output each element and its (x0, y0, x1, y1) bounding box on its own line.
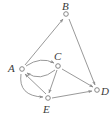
node-label-b: B (62, 1, 69, 12)
edge-e-to-d (52, 91, 92, 98)
edge-c-to-a (27, 70, 55, 77)
node-d[interactable] (95, 88, 100, 93)
node-label-c: C (54, 51, 61, 62)
edge-a-to-e (21, 74, 43, 97)
node-label-d: D (101, 86, 109, 97)
node-label-e: E (43, 104, 50, 115)
node-e[interactable] (46, 96, 51, 101)
directed-graph-figure: A B C D E (0, 0, 112, 119)
node-b[interactable] (64, 12, 69, 17)
edge-a-to-c (26, 60, 54, 66)
node-c[interactable] (56, 64, 61, 69)
edge-c-to-d (62, 69, 93, 87)
node-a[interactable] (20, 67, 25, 72)
node-label-a: A (8, 63, 15, 74)
